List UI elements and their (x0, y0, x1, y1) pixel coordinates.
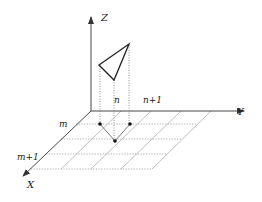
label-n1: n+1 (143, 95, 162, 105)
grid-columns (61, 111, 211, 169)
label-m1: m+1 (17, 152, 39, 162)
projection-diagram: Z Y X n n+1 m m+1 (0, 0, 262, 202)
node-m1-n (113, 139, 117, 143)
label-n: n (114, 95, 120, 105)
diagram-svg: Z Y X n n+1 m m+1 (0, 0, 262, 202)
y-axis-label: Y (237, 106, 245, 117)
axes (23, 17, 244, 176)
x-axis (23, 111, 91, 176)
node-m-n (98, 122, 102, 126)
triangle-shape (99, 44, 129, 80)
z-axis-label: Z (100, 12, 109, 23)
node-m-n1 (128, 122, 132, 126)
x-axis-label: X (26, 179, 35, 190)
grid-nodes (98, 122, 132, 143)
label-m: m (59, 119, 68, 129)
